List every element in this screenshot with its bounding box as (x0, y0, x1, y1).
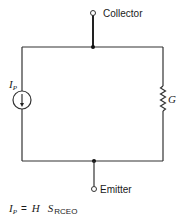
conductance-resistor-icon (161, 86, 166, 111)
collector-junction-dot (91, 45, 95, 49)
emitter-label: Emitter (100, 184, 132, 195)
equation: IP=HSRCEO (8, 202, 77, 216)
collector-label: Collector (103, 8, 143, 19)
circuit-diagram: Collector IP G Emitter IP=HSRCEO (0, 0, 182, 219)
conductance-label: G (168, 93, 176, 105)
collector-terminal (91, 11, 96, 16)
emitter-terminal (92, 187, 97, 192)
current-source-label: IP (8, 78, 18, 92)
